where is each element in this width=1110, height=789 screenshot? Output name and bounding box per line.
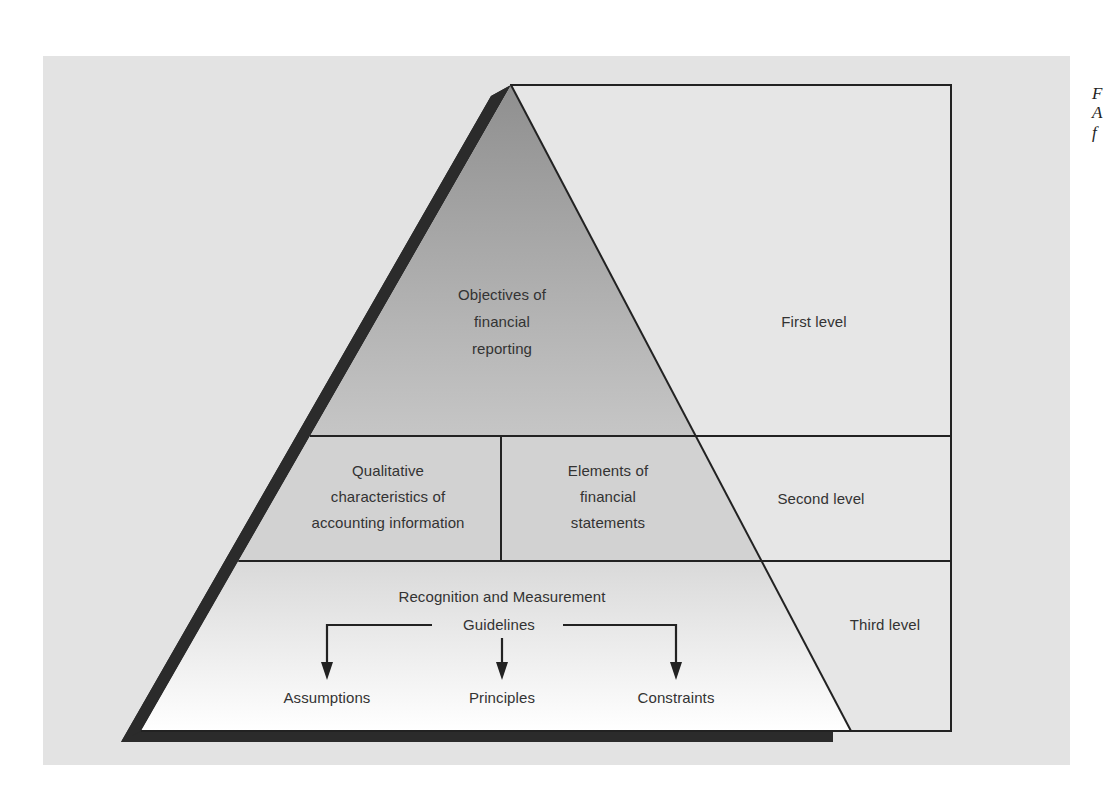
third-level-child-assumptions: Assumptions [284, 689, 371, 706]
pyramid-diagram: Objectives of financial reporting Qualit… [0, 0, 1110, 789]
pyramid-second-level [238, 436, 761, 561]
second-level-right-text-2: financial [580, 488, 636, 505]
first-level-text-1: Objectives of [458, 286, 547, 303]
level-label-third: Third level [850, 616, 920, 633]
second-level-left-text-3: accounting information [311, 514, 464, 531]
level-label-first: First level [781, 313, 846, 330]
second-level-left-text-2: characteristics of [331, 488, 446, 505]
second-level-right-text-3: statements [571, 514, 645, 531]
level-label-second: Second level [777, 490, 864, 507]
second-level-right-text-1: Elements of [568, 462, 649, 479]
figure-canvas: Objectives of financial reporting Qualit… [0, 0, 1110, 789]
first-level-text-2: financial [474, 313, 530, 330]
edge-caption-fragment-1: F [1092, 84, 1110, 103]
first-level-text-3: reporting [472, 340, 532, 357]
third-level-child-constraints: Constraints [638, 689, 715, 706]
third-level-child-principles: Principles [469, 689, 535, 706]
third-level-heading-2: Guidelines [463, 616, 535, 633]
edge-caption-fragment-2: A [1092, 103, 1110, 122]
third-level-heading-1: Recognition and Measurement [399, 588, 607, 605]
second-level-left-text-1: Qualitative [352, 462, 424, 479]
edge-caption-fragment-3: f [1092, 123, 1110, 142]
